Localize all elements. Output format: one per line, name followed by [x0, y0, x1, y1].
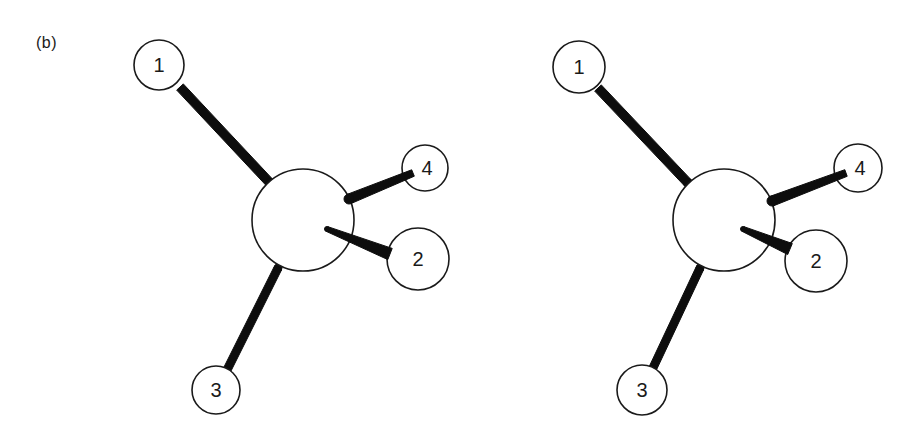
bond-to-atom-3 [223, 264, 282, 372]
bond-to-atom-4 [344, 170, 414, 204]
left-view: 1324 [134, 40, 449, 414]
central-atom [252, 169, 354, 271]
atom-3: 3 [617, 365, 667, 415]
atom-label: 2 [412, 248, 423, 270]
atom-label: 3 [636, 379, 647, 401]
bond-to-atom-1 [177, 84, 275, 188]
stereo-molecule-figure: (b) 1324 1324 [0, 0, 915, 437]
atom-label: 1 [573, 56, 584, 78]
atom-label: 2 [810, 250, 821, 272]
atom-3: 3 [192, 366, 240, 414]
atom-1: 1 [134, 40, 184, 90]
central-atom [673, 169, 775, 271]
atom-label: 1 [153, 54, 164, 76]
bond-to-atom-3 [648, 264, 704, 372]
molecule-diagram: 1324 1324 [0, 0, 915, 437]
atom-label: 4 [421, 157, 432, 179]
atom-4: 4 [402, 145, 448, 191]
panel-label: (b) [36, 34, 57, 52]
atom-label: 3 [210, 379, 221, 401]
atom-2: 2 [387, 228, 449, 290]
bond-to-atom-4 [767, 170, 847, 206]
right-view: 1324 [553, 41, 882, 415]
atom-2: 2 [785, 230, 847, 292]
bond-to-atom-1 [595, 85, 693, 188]
atom-4: 4 [834, 144, 882, 192]
atom-1: 1 [553, 41, 605, 93]
atom-label: 4 [854, 157, 865, 179]
